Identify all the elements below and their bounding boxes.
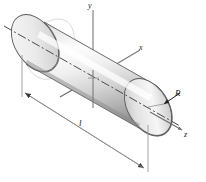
centerline-group — [4, 26, 180, 126]
figure-canvas: y x z R l — [0, 0, 206, 182]
cylinder-centerline — [4, 26, 180, 126]
x-axis-label: x — [139, 44, 143, 52]
length-label: l — [79, 119, 82, 128]
z-axis-label: z — [184, 131, 187, 139]
radius-label: R — [175, 89, 181, 98]
cylinder-solid — [2, 6, 182, 144]
y-axis-label: y — [88, 2, 92, 10]
